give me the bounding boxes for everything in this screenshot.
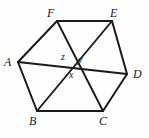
hexagon-edges — [18, 21, 127, 111]
vertex-label-B: B — [29, 115, 36, 127]
vertex-label-D: D — [133, 68, 142, 80]
vertex-label-E: E — [110, 7, 117, 19]
angle-label-z: z — [61, 52, 65, 62]
angle-label-x: x — [69, 70, 73, 80]
hexagon-edge-DE — [112, 21, 127, 74]
geometry-figure: A B C D E F z y x — [0, 0, 149, 138]
hexagon-edge-CD — [103, 74, 127, 111]
hexagon-diagonal-CF — [57, 21, 103, 111]
vertex-label-C: C — [99, 115, 107, 127]
vertex-label-F: F — [47, 7, 54, 19]
hexagon-edge-FA — [18, 21, 57, 62]
angle-label-y: y — [78, 55, 82, 65]
hexagon-diagram-svg — [0, 0, 149, 138]
vertex-label-A: A — [4, 56, 11, 68]
hexagon-edge-AB — [18, 62, 37, 111]
